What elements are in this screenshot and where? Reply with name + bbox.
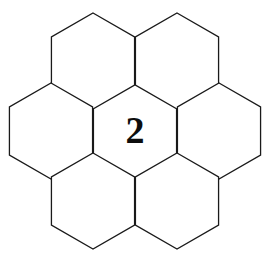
hexagon-canvas: 2: [0, 0, 270, 265]
hexagon-label-group: 2: [126, 109, 145, 151]
hexagon-figure: 2: [0, 0, 270, 265]
hexagon-label-center: 2: [126, 109, 145, 151]
